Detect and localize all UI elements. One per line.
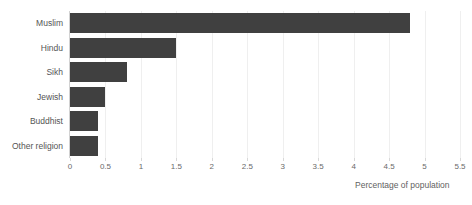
bar-chart: MuslimHinduSikhJewishBuddhistOther relig…: [0, 0, 472, 205]
plot-area: [70, 11, 460, 158]
category-label-other-religion: Other religion: [0, 141, 63, 151]
x-axis-title: Percentage of population: [355, 180, 450, 190]
x-tick-mark: [460, 158, 461, 161]
x-tick-label: 4: [351, 162, 355, 171]
x-tick-label: 5.5: [454, 162, 465, 171]
bar-muslim[interactable]: [70, 13, 410, 33]
bar-buddhist[interactable]: [70, 111, 98, 131]
gridline: [460, 11, 461, 158]
x-tick-label: 3.5: [313, 162, 324, 171]
bar-row: [70, 38, 460, 58]
x-tick-label: 5: [422, 162, 426, 171]
x-tick-mark: [247, 158, 248, 161]
category-label-sikh: Sikh: [0, 67, 63, 77]
x-tick-mark: [283, 158, 284, 161]
x-tick-mark: [389, 158, 390, 161]
bar-hindu[interactable]: [70, 38, 176, 58]
bar-jewish[interactable]: [70, 87, 105, 107]
x-tick-mark: [176, 158, 177, 161]
x-tick-label: 2: [210, 162, 214, 171]
category-label-jewish: Jewish: [0, 92, 63, 102]
bar-other-religion[interactable]: [70, 136, 98, 156]
x-tick-mark: [105, 158, 106, 161]
x-tick-mark: [318, 158, 319, 161]
x-tick-mark: [425, 158, 426, 161]
x-tick-mark: [212, 158, 213, 161]
x-tick-label: 2.5: [242, 162, 253, 171]
category-label-muslim: Muslim: [0, 18, 63, 28]
bar-row: [70, 136, 460, 156]
x-tick-label: 0.5: [100, 162, 111, 171]
bar-row: [70, 87, 460, 107]
bar-row: [70, 111, 460, 131]
category-label-hindu: Hindu: [0, 43, 63, 53]
x-tick-mark: [70, 158, 71, 161]
bar-row: [70, 62, 460, 82]
x-tick-label: 1.5: [171, 162, 182, 171]
x-tick-mark: [354, 158, 355, 161]
x-tick-label: 0: [68, 162, 72, 171]
category-label-buddhist: Buddhist: [0, 116, 63, 126]
bar-sikh[interactable]: [70, 62, 127, 82]
bar-row: [70, 13, 460, 33]
x-tick-label: 1: [139, 162, 143, 171]
x-tick-label: 4.5: [384, 162, 395, 171]
x-tick-mark: [141, 158, 142, 161]
x-tick-label: 3: [280, 162, 284, 171]
